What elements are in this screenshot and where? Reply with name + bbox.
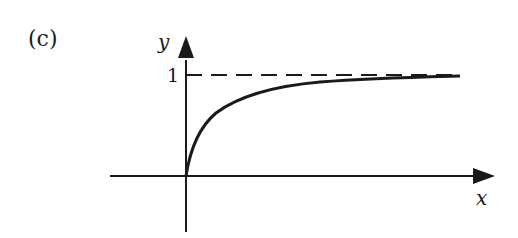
y-axis-arrow-icon: [178, 36, 194, 58]
graph-canvas: [0, 0, 518, 238]
x-axis-arrow-icon: [473, 168, 495, 184]
saturation-curve: [186, 76, 460, 176]
